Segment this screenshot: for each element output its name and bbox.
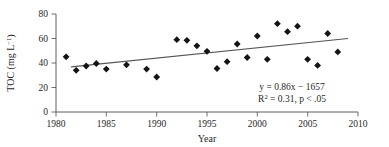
data-point bbox=[153, 74, 160, 81]
toc-vs-year-scatter-plot: 0 20 40 60 80 1980 1985 1990 1995 2000 2… bbox=[0, 0, 389, 147]
y-axis-title-superscript: −1 bbox=[5, 38, 12, 45]
data-point bbox=[274, 20, 281, 27]
y-axis-tick-labels: 0 20 40 60 80 bbox=[39, 9, 49, 117]
data-point bbox=[83, 63, 90, 70]
y-axis-title-tail: ) bbox=[5, 34, 17, 37]
data-point bbox=[264, 56, 271, 63]
chart-figure: 0 20 40 60 80 1980 1985 1990 1995 2000 2… bbox=[0, 0, 389, 147]
x-axis-title: Year bbox=[198, 133, 217, 144]
regression-equation-annotation: y = 0.86x − 1657 bbox=[259, 82, 325, 92]
x-tick-label: 2005 bbox=[298, 119, 317, 129]
data-point bbox=[284, 28, 291, 35]
scatter-data-points bbox=[63, 20, 342, 80]
data-point bbox=[304, 56, 311, 63]
regression-stats-annotation: R2 = 0.31, p < .05 bbox=[258, 93, 326, 104]
y-axis-ticks bbox=[52, 14, 57, 112]
data-point bbox=[184, 37, 191, 44]
y-tick-label: 0 bbox=[43, 107, 48, 117]
x-axis-ticks bbox=[56, 112, 358, 117]
y-axis-title: TOC (mg L−1) bbox=[5, 34, 17, 91]
y-tick-label: 60 bbox=[39, 34, 49, 44]
data-point bbox=[143, 66, 150, 73]
x-tick-label: 1980 bbox=[47, 119, 66, 129]
data-point bbox=[314, 62, 321, 69]
data-point bbox=[123, 61, 130, 68]
data-point bbox=[324, 30, 331, 37]
data-point bbox=[93, 60, 100, 67]
data-point bbox=[194, 42, 201, 49]
data-point bbox=[334, 49, 341, 56]
data-point bbox=[173, 36, 180, 43]
y-tick-label: 80 bbox=[39, 9, 49, 19]
data-point bbox=[224, 58, 231, 65]
y-axis-title-main: TOC (mg L bbox=[5, 45, 17, 92]
data-point bbox=[63, 53, 70, 60]
x-tick-label: 2010 bbox=[349, 119, 368, 129]
x-tick-label: 1985 bbox=[97, 119, 116, 129]
data-point bbox=[103, 66, 110, 73]
x-tick-label: 1995 bbox=[198, 119, 217, 129]
y-tick-label: 40 bbox=[39, 58, 49, 68]
regression-trend-line bbox=[71, 39, 348, 67]
data-point bbox=[234, 41, 241, 48]
y-tick-label: 20 bbox=[39, 83, 49, 93]
x-axis-tick-labels: 1980 1985 1990 1995 2000 2005 2010 bbox=[47, 119, 368, 129]
data-point bbox=[244, 54, 251, 61]
x-tick-label: 1990 bbox=[147, 119, 166, 129]
stats-tail: = 0.31, p < .05 bbox=[268, 94, 326, 104]
x-tick-label: 2000 bbox=[248, 119, 267, 129]
data-point bbox=[254, 33, 261, 40]
data-point bbox=[294, 23, 301, 30]
data-point bbox=[214, 65, 221, 72]
data-point bbox=[73, 67, 80, 74]
